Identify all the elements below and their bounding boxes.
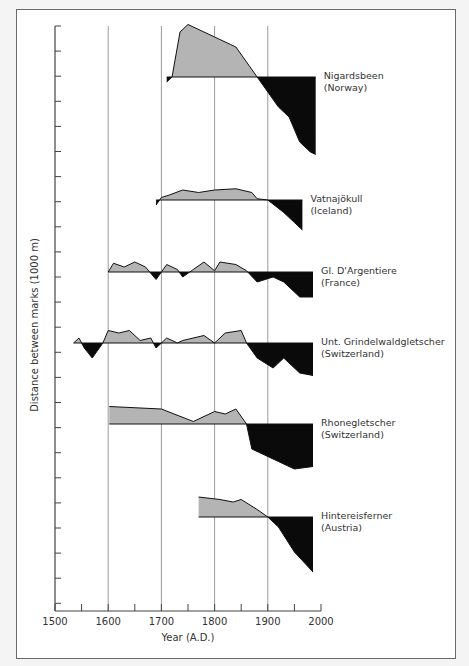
series-unt-grindelwaldgletscher [74,331,313,376]
retreat-area [109,424,313,469]
retreat-area [108,272,313,297]
series-nigardsbeen [167,25,316,155]
advance-area [109,407,313,425]
series-region: (Switzerland) [321,348,384,359]
advance-area [74,331,313,344]
x-tick-label: 1600 [95,616,120,627]
series-label: Unt. Grindelwaldgletscher [321,336,445,347]
series-label: Hintereisferner [321,510,392,521]
series-region: (Norway) [324,82,367,93]
x-tick-label: 1900 [255,616,280,627]
series-region: (Switzerland) [321,429,384,440]
series-label: Vatnajökull [310,193,362,204]
series-hintereisferner [199,497,313,572]
advance-area [156,189,302,200]
gridlines [108,26,268,611]
series-gl-d-argentiere [108,262,313,297]
retreat-area [199,517,313,572]
x-tick-label: 1800 [202,616,227,627]
advance-area [167,25,316,78]
y-axis-label: Distance between marks (1000 m) [29,238,40,412]
retreat-area [167,77,316,155]
series-labels: Nigardsbeen(Norway)Vatnajökull(Iceland)G… [310,70,444,533]
series-label: Nigardsbeen [324,70,384,81]
series-group [74,25,316,573]
series-label: Rhonegletscher [321,417,396,428]
x-tick-label: 1500 [42,616,67,627]
series-vatnaj-kull [156,189,302,230]
series-label: Gl. D'Argentiere [321,265,397,276]
advance-area [199,497,313,517]
x-axis-label: Year (A.D.) [161,632,215,643]
retreat-area [74,343,313,376]
x-tick-label: 1700 [149,616,174,627]
x-tick-label: 2000 [308,616,333,627]
series-rhonegletscher [109,407,313,470]
glacier-chart: 150016001700180019002000 Nigardsbeen(Nor… [0,0,469,666]
series-region: (France) [321,277,360,288]
series-region: (Iceland) [310,205,352,216]
retreat-area [156,200,302,230]
series-region: (Austria) [321,522,362,533]
